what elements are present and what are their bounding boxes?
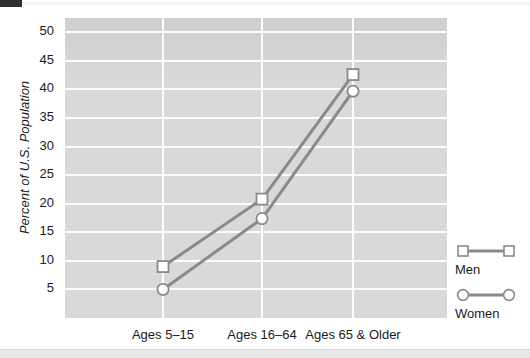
top-rule: [22, 2, 530, 5]
legend-label-men: Men: [455, 262, 530, 277]
y-axis-tick-label: 25: [8, 166, 54, 181]
y-axis-tick-label: 35: [8, 109, 54, 124]
y-axis-tick-label: 15: [8, 223, 54, 238]
y-axis-tick-label: 40: [8, 80, 54, 95]
y-axis-tick-label: 50: [8, 23, 54, 38]
x-axis-tick-label: Ages 5–15: [132, 327, 194, 342]
circle-marker-icon: [455, 287, 517, 303]
x-axis-tick-label: Ages 16–64: [227, 327, 296, 342]
chart-legend: Men Women: [455, 243, 530, 331]
page-bottom-band: [0, 349, 530, 358]
legend-label-women: Women: [455, 306, 530, 321]
x-axis-tick-label: Ages 65 & Older: [305, 327, 400, 342]
y-axis-tick-label: 5: [8, 280, 54, 295]
data-point-square: [257, 194, 268, 205]
y-axis-tick-label: 45: [8, 52, 54, 67]
legend-entry-women: [455, 287, 530, 305]
data-point-square: [348, 69, 359, 80]
series-line-men: [163, 75, 353, 267]
y-axis-tick-label: 20: [8, 195, 54, 210]
series-line-women: [163, 91, 353, 289]
data-point-circle: [347, 86, 358, 97]
page-corner-mark: [0, 0, 22, 7]
y-axis-tick-label: 10: [8, 252, 54, 267]
legend-entry-men: [455, 243, 530, 261]
square-marker-icon: [455, 243, 517, 259]
data-point-circle: [157, 284, 168, 295]
y-axis-tick-label: 30: [8, 138, 54, 153]
data-point-square: [158, 261, 169, 272]
data-series-layer: [65, 18, 447, 318]
data-point-circle: [256, 213, 267, 224]
